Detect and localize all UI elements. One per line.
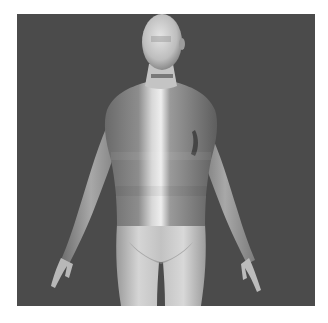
render-viewport — [17, 14, 315, 306]
left-hand — [51, 258, 73, 288]
legs — [116, 224, 206, 306]
right-hand — [241, 258, 261, 292]
mannequin-figure — [17, 14, 315, 306]
